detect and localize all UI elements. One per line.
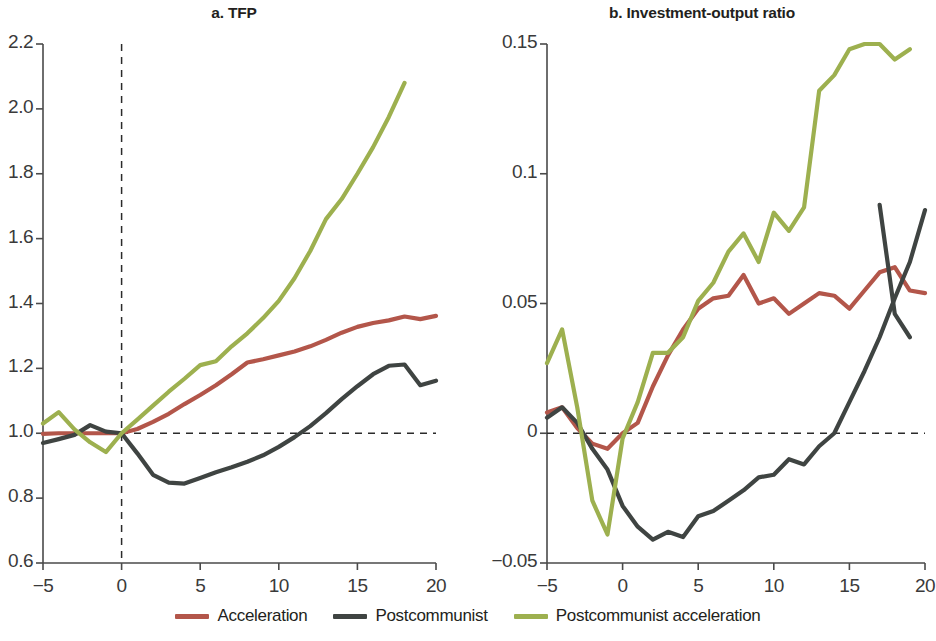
panel-a-x-tick-label: 20: [396, 575, 476, 597]
panel-a-x-tick-label: 5: [160, 575, 240, 597]
panel-b-x-tick-label: 15: [809, 575, 889, 597]
panel-b-title: b. Investment-output ratio: [468, 4, 936, 22]
panel-a-x-tick-label: −5: [3, 575, 83, 597]
panel-b-x-tick-label: 0: [583, 575, 663, 597]
panel-a-y-tick-label: 1.6: [0, 226, 33, 248]
legend-swatch-postcommunist: [333, 614, 367, 619]
panel-b-y-tick-label: −0.05: [407, 550, 537, 572]
legend-item-postcommunist-acceleration: Postcommunist acceleration: [514, 606, 761, 626]
panel-a-x-tick-label: 10: [239, 575, 319, 597]
panel-a-title: a. TFP: [0, 4, 468, 22]
panel-a-y-tick-label: 0.6: [0, 550, 33, 572]
panel-b-x-tick-label: 5: [658, 575, 738, 597]
panel-b-y-tick-label: 0.15: [407, 31, 537, 53]
panel-a-y-tick-label: 0.8: [0, 485, 33, 507]
legend-swatch-postcommunist-acceleration: [514, 614, 548, 619]
panel-a-y-tick-label: 2.2: [0, 31, 33, 53]
panel-b-y-tick-label: 0.1: [407, 161, 537, 183]
legend-label-acceleration: Acceleration: [217, 606, 307, 626]
legend-item-postcommunist: Postcommunist: [333, 606, 487, 626]
legend-label-postcommunist: Postcommunist: [375, 606, 487, 626]
panel-b-y-tick-label: 0.05: [407, 291, 537, 313]
panel-b-y-tick-label: 0: [407, 420, 537, 442]
panel-a-y-tick-label: 2.0: [0, 96, 33, 118]
legend-swatch-acceleration: [175, 614, 209, 619]
legend-item-acceleration: Acceleration: [175, 606, 307, 626]
legend: Acceleration Postcommunist Postcommunist…: [0, 606, 936, 626]
panel-a-y-tick-label: 1.8: [0, 161, 33, 183]
panel-b-x-tick-label: 20: [885, 575, 936, 597]
figure-root: [0, 0, 936, 641]
panel-a-y-tick-label: 1.2: [0, 355, 33, 377]
panel-a-x-tick-label: 15: [317, 575, 397, 597]
panel-b-x-tick-label: 10: [734, 575, 814, 597]
legend-label-postcommunist-acceleration: Postcommunist acceleration: [556, 606, 761, 626]
panel-b-x-tick-label: −5: [507, 575, 587, 597]
panel-a-y-tick-label: 1.4: [0, 291, 33, 313]
panel-a-x-tick-label: 0: [82, 575, 162, 597]
panel-a-y-tick-label: 1.0: [0, 420, 33, 442]
